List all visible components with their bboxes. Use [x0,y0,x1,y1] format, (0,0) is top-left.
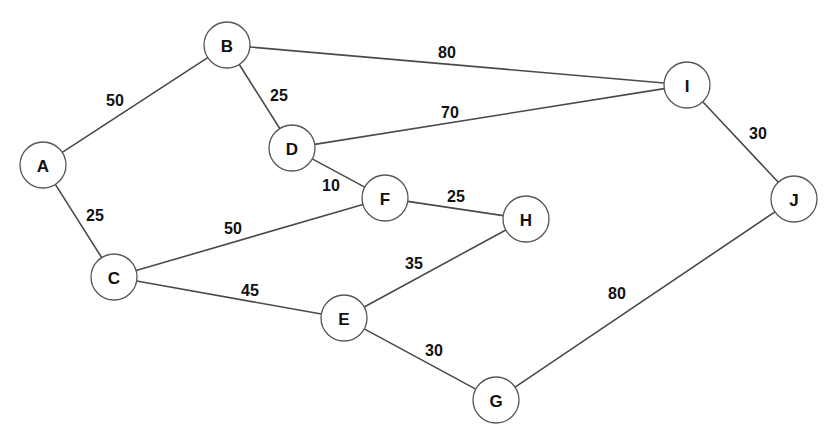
graph-edge-d-i [315,89,665,145]
edge-weight-label-e-g: 30 [425,342,443,359]
graph-edge-c-f [136,204,363,270]
edge-weight-label-f-h: 25 [447,188,465,205]
graph-edge-i-j [703,102,779,182]
edge-weight-label-b-d: 25 [270,87,288,104]
graph-node-b[interactable]: B [204,22,250,68]
graph-edge-b-i [250,47,664,83]
graph-svg: ABCDEFGHIJ 50252580701050452535308030 [0,0,840,444]
graph-node-i[interactable]: I [664,62,710,108]
edge-weight-label-b-i: 80 [438,44,456,61]
graph-edge-e-h [364,230,506,307]
edge-weight-label-c-f: 50 [224,220,242,237]
graph-node-j[interactable]: J [771,176,817,222]
node-label-j: J [789,191,798,210]
graph-diagram-canvas: ABCDEFGHIJ 50252580701050452535308030 [0,0,840,444]
node-label-i: I [685,77,690,96]
graph-edge-g-j [515,212,775,387]
edge-weight-label-a-b: 50 [106,92,124,109]
edge-weight-label-e-h: 35 [405,255,423,272]
edge-weight-label-i-j: 30 [749,125,767,142]
node-label-a: A [37,157,49,176]
node-label-g: G [489,392,502,411]
node-label-h: H [520,211,532,230]
graph-node-e[interactable]: E [321,295,367,341]
node-label-b: B [221,37,233,56]
graph-node-d[interactable]: D [269,125,315,171]
graph-node-c[interactable]: C [91,254,137,300]
graph-node-g[interactable]: G [473,377,519,423]
node-label-c: C [108,269,120,288]
graph-node-a[interactable]: A [20,142,66,188]
nodes-layer: ABCDEFGHIJ [20,22,817,423]
node-label-f: F [380,190,390,209]
edge-weight-label-a-c: 25 [86,207,104,224]
node-label-d: D [286,140,298,159]
graph-edge-e-g [364,329,476,389]
edge-weight-label-d-i: 70 [441,104,459,121]
graph-edge-c-e [137,281,322,314]
graph-edge-a-b [62,58,207,153]
edge-weight-label-c-e: 45 [241,282,259,299]
edge-weight-label-g-j: 80 [608,285,626,302]
graph-node-f[interactable]: F [362,175,408,221]
node-label-e: E [338,310,349,329]
edge-weight-label-d-f: 10 [322,177,340,194]
graph-node-h[interactable]: H [503,196,549,242]
